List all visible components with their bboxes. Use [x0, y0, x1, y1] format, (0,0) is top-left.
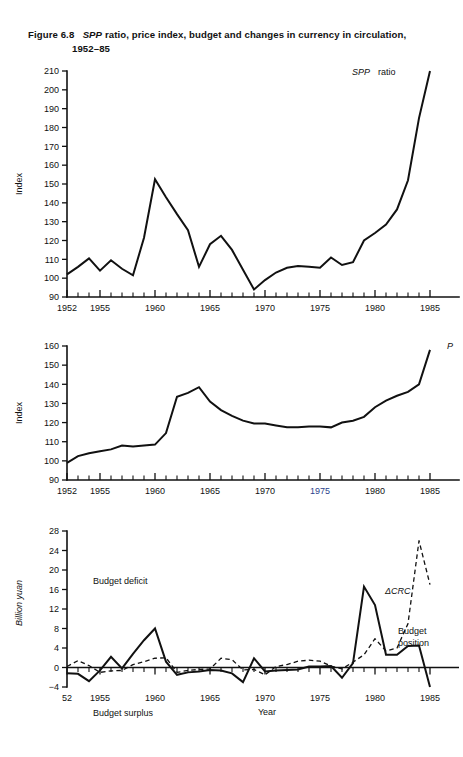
- svg-text:180: 180: [44, 123, 59, 133]
- svg-text:170: 170: [44, 142, 59, 152]
- svg-text:1960: 1960: [145, 693, 165, 703]
- budget-deficit-annotation: Budget deficit: [93, 576, 148, 586]
- spp-ratio-series-label-italic: SPP: [352, 67, 370, 77]
- svg-text:1952: 1952: [57, 486, 77, 496]
- svg-text:120: 120: [44, 418, 59, 428]
- svg-text:52: 52: [62, 693, 72, 703]
- svg-text:150: 150: [44, 179, 59, 189]
- svg-text:140: 140: [44, 198, 59, 208]
- svg-text:8: 8: [54, 624, 59, 634]
- svg-text:1985: 1985: [420, 303, 440, 313]
- spp-ratio-series-label-rest: ratio: [378, 67, 396, 77]
- svg-text:1955: 1955: [90, 303, 110, 313]
- svg-text:1960: 1960: [145, 303, 165, 313]
- svg-text:1965: 1965: [200, 486, 220, 496]
- svg-text:200: 200: [44, 85, 59, 95]
- svg-text:160: 160: [44, 160, 59, 170]
- figure-number: Figure 6.8: [28, 29, 74, 40]
- svg-text:140: 140: [44, 380, 59, 390]
- figure-title-rest: ratio, price index, budget and changes i…: [102, 29, 406, 40]
- chart-price-index: 9010011012013014015016019521955196019651…: [0, 335, 463, 505]
- svg-text:1980: 1980: [365, 693, 385, 703]
- svg-text:150: 150: [44, 360, 59, 370]
- chart-budget-crc: −404812162024285219551960196519701975198…: [0, 520, 463, 740]
- svg-text:1975: 1975: [310, 693, 330, 703]
- svg-text:100: 100: [44, 273, 59, 283]
- svg-text:12: 12: [49, 604, 59, 614]
- figure-title-line2: 1952–85: [72, 42, 110, 56]
- svg-text:1975: 1975: [310, 303, 330, 313]
- price-index-series-label: P: [447, 341, 453, 351]
- budget-crc-plot: −404812162024285219551960196519701975198…: [0, 520, 463, 740]
- svg-text:210: 210: [44, 66, 59, 76]
- svg-text:100: 100: [44, 456, 59, 466]
- svg-text:1985: 1985: [420, 486, 440, 496]
- svg-text:1965: 1965: [200, 303, 220, 313]
- svg-text:0: 0: [54, 663, 59, 673]
- svg-text:90: 90: [49, 292, 59, 302]
- svg-text:110: 110: [45, 255, 59, 265]
- svg-text:130: 130: [44, 217, 59, 227]
- budget-position-series-label-line1: Budget: [398, 626, 427, 636]
- svg-text:1975: 1975: [310, 486, 330, 496]
- figure-root: Figure 6.8 SPP ratio, price index, budge…: [0, 0, 463, 757]
- svg-text:1985: 1985: [420, 693, 440, 703]
- svg-text:1955: 1955: [90, 486, 110, 496]
- svg-text:1965: 1965: [200, 693, 220, 703]
- budget-surplus-annotation: Budget surplus: [93, 708, 154, 718]
- svg-text:130: 130: [44, 399, 59, 409]
- svg-text:1970: 1970: [255, 303, 275, 313]
- budget-position-series-label-line2: position: [398, 638, 429, 648]
- svg-text:1960: 1960: [145, 486, 165, 496]
- price-index-plot: 9010011012013014015016019521955196019651…: [0, 335, 463, 505]
- svg-text:Index: Index: [14, 172, 24, 195]
- svg-text:110: 110: [45, 437, 59, 447]
- figure-title-italic-lead: SPP: [83, 29, 103, 40]
- svg-text:Index: Index: [14, 401, 24, 424]
- spp-ratio-plot: 9010011012013014015016017018019020021019…: [0, 60, 463, 320]
- svg-text:1980: 1980: [365, 303, 385, 313]
- figure-title: Figure 6.8 SPP ratio, price index, budge…: [28, 28, 448, 55]
- svg-text:−4: −4: [49, 682, 59, 692]
- svg-text:20: 20: [49, 565, 59, 575]
- svg-text:120: 120: [44, 236, 59, 246]
- svg-text:24: 24: [49, 546, 59, 556]
- svg-text:190: 190: [44, 104, 59, 114]
- svg-text:90: 90: [49, 475, 59, 485]
- svg-text:1970: 1970: [255, 486, 275, 496]
- svg-text:1952: 1952: [57, 303, 77, 313]
- svg-text:1970: 1970: [255, 693, 275, 703]
- svg-text:28: 28: [49, 526, 59, 536]
- svg-text:16: 16: [49, 585, 59, 595]
- svg-text:Billion yuan: Billion yuan: [14, 580, 24, 626]
- svg-text:Year: Year: [258, 707, 276, 717]
- delta-crc-series-label: ΔCRC: [384, 586, 411, 596]
- svg-text:1955: 1955: [90, 693, 110, 703]
- svg-text:1980: 1980: [365, 486, 385, 496]
- svg-text:4: 4: [54, 643, 59, 653]
- chart-spp-ratio: 9010011012013014015016017018019020021019…: [0, 60, 463, 320]
- svg-text:160: 160: [44, 341, 59, 351]
